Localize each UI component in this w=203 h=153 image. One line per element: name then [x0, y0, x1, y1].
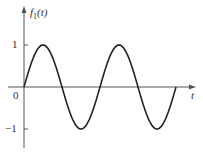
ytick-label-neg1: −1: [5, 122, 17, 134]
x-axis-label: t: [191, 89, 194, 101]
y-axis-arrow-icon: [22, 6, 27, 13]
chart-canvas: [0, 0, 203, 153]
ytick-label-1: 1: [12, 38, 18, 50]
y-axis-label: f1(t): [30, 6, 47, 21]
ytick-label-0: 0: [13, 89, 19, 101]
